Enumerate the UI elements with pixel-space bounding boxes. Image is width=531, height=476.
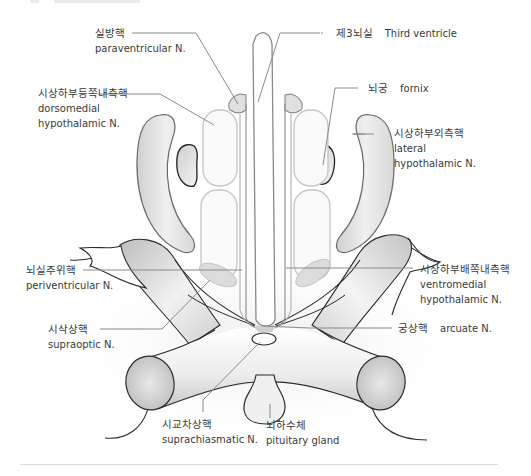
right-paraventricular-nucleus (285, 94, 302, 113)
label-supraoptic: 시삭상핵 supraoptic N. (48, 322, 115, 352)
label-arcuate: 궁상핵arcuate N. (398, 321, 492, 336)
right-lateral-hypothalamic-nucleus (337, 115, 395, 253)
label-en: lateral (394, 141, 476, 156)
label-ko: 뇌궁 (368, 82, 388, 94)
label-ko: 궁상핵 (398, 322, 428, 334)
left-fornix (177, 145, 197, 187)
label-ko: 시교차상핵 (162, 417, 258, 432)
label-ko: 실방핵 (95, 26, 186, 41)
label-lateral: 시상하부외측핵 lateral hypothalamic N. (394, 126, 476, 171)
label-ko: 시삭상핵 (48, 322, 115, 337)
label-ko: 제3뇌실 (336, 27, 373, 39)
label-en-line2: hypothalamic N. (420, 292, 510, 307)
label-en: periventricular N. (26, 278, 113, 293)
right-dorsomedial-nucleus-upper (294, 110, 328, 186)
suprachiasmatic-nucleus (252, 333, 276, 345)
label-en: dorsomedial (38, 101, 128, 116)
label-en-line2: hypothalamic N. (394, 156, 476, 171)
label-ko: 시상하부등쪽내측핵 (38, 86, 128, 101)
bottom-divider (20, 464, 498, 465)
label-en: arcuate N. (440, 323, 492, 334)
label-pituitary: 뇌하수체 pituitary gland (266, 418, 339, 448)
label-en: paraventricular N. (95, 41, 186, 56)
third-ventricle (253, 33, 275, 326)
label-dorsomedial: 시상하부등쪽내측핵 dorsomedial hypothalamic N. (38, 86, 128, 131)
hypothalamus-diagram (0, 0, 531, 476)
label-en: Third ventricle (385, 28, 457, 39)
label-ko: 시상하부외측핵 (394, 126, 476, 141)
label-fornix: 뇌궁fornix (368, 81, 429, 96)
label-ko: 뇌실주위핵 (26, 263, 113, 278)
label-ventromedial: 시상하부배쪽내측핵 ventromedial hypothalamic N. (420, 262, 510, 307)
label-en: ventromedial (420, 277, 510, 292)
label-en: fornix (400, 83, 429, 94)
label-en: suprachiasmatic N. (162, 432, 258, 447)
label-ko: 뇌하수체 (266, 418, 339, 433)
label-suprachiasmatic: 시교차상핵 suprachiasmatic N. (162, 417, 258, 447)
label-en-line2: hypothalamic N. (38, 116, 128, 131)
label-third-ventricle: 제3뇌실Third ventricle (336, 26, 457, 41)
label-en: supraoptic N. (48, 337, 115, 352)
label-periventricular: 뇌실주위핵 periventricular N. (26, 263, 113, 293)
label-en: pituitary gland (266, 433, 339, 448)
label-ko: 시상하부배쪽내측핵 (420, 262, 510, 277)
label-paraventricular: 실방핵 paraventricular N. (95, 26, 186, 56)
